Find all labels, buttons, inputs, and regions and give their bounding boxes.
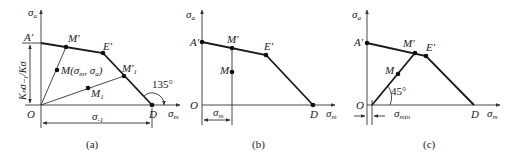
panel-c: σa σm O A′ M′ E′ M D 45° σmin (c): [352, 8, 500, 151]
y-axis-label: σa: [352, 8, 361, 22]
label-e-prime: E′: [102, 40, 113, 52]
ray-om-prime: [41, 47, 66, 105]
caption-c: (c): [423, 138, 436, 151]
point-e-prime: [264, 53, 269, 58]
label-d: D: [148, 108, 157, 120]
label-m1-prime: M′1: [121, 62, 137, 76]
x-axis-label: σm: [487, 107, 498, 121]
label-a-prime: A′: [353, 36, 364, 48]
point-e-prime: [424, 54, 429, 59]
label-a-prime: A′: [23, 31, 34, 43]
origin-label: O: [356, 99, 364, 111]
limit-line: [202, 42, 313, 105]
label-m-prime: M′: [402, 37, 415, 49]
y-axis-label: σa: [186, 8, 195, 22]
panel-a: σa σm O A′ M′ E′ M′1 M(σm, σa) M1 D 135°…: [17, 6, 180, 151]
y-axis-label: σa: [28, 6, 37, 20]
point-m-prime: [230, 46, 235, 51]
label-e-prime: E′: [263, 40, 274, 52]
point-d: [150, 103, 155, 108]
label-m-prime: M′: [67, 32, 80, 44]
horizontal-dimension-label: σ-1: [92, 110, 103, 124]
label-m: M(σm, σa): [60, 64, 103, 78]
origin-label: O: [27, 108, 35, 120]
caption-b: (b): [252, 138, 265, 151]
limit-line: [367, 43, 474, 105]
point-m: [55, 68, 60, 73]
label-d: D: [470, 108, 479, 120]
point-m-prime: [413, 51, 418, 56]
caption-a: (a): [86, 138, 99, 151]
origin-label: O: [190, 99, 198, 111]
point-m-prime: [64, 45, 69, 50]
point-d: [311, 103, 316, 108]
label-a-prime: A′: [189, 36, 200, 48]
label-m: M: [219, 64, 230, 76]
ray-om1-prime: [41, 76, 124, 105]
point-m: [396, 72, 401, 77]
x-axis-label: σm: [326, 107, 337, 121]
horizontal-dimension-label: σm: [213, 106, 224, 120]
label-m: M: [384, 64, 395, 76]
label-m-prime: M′: [226, 33, 239, 45]
panel-b: σa σm O A′ M′ E′ M D σm (b): [186, 8, 337, 151]
angle-label-135: 135°: [152, 78, 173, 90]
ray-45: [372, 53, 415, 105]
point-a-prime: [200, 40, 205, 45]
label-d: D: [309, 108, 318, 120]
x-axis-label: σm: [168, 107, 179, 121]
point-a-prime: [365, 41, 370, 46]
label-e-prime: E′: [425, 41, 436, 53]
horizontal-dimension-label: σmin: [394, 107, 410, 121]
label-m1: M1: [90, 87, 104, 101]
point-m1: [86, 86, 91, 91]
angle-label-45: 45°: [391, 85, 406, 97]
vertical-dimension-label: Kₙσ₋₁/Kσ: [17, 60, 28, 101]
point-m1-prime: [122, 74, 127, 79]
point-m: [230, 70, 235, 75]
fatigue-limit-diagrams: σa σm O A′ M′ E′ M′1 M(σm, σa) M1 D 135°…: [0, 0, 511, 167]
